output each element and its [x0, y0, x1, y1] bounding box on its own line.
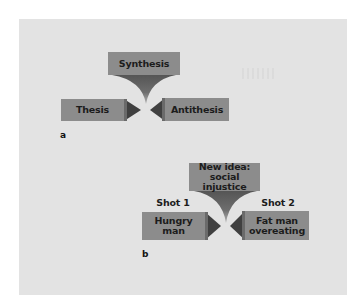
thesis-label: Thesis [76, 105, 109, 115]
new-idea-box: New idea: social injustice [189, 163, 260, 191]
antithesis-box: Antithesis [165, 98, 229, 121]
synthesis-label: Synthesis [119, 59, 169, 69]
hungry-man-box: Hungry man [142, 212, 205, 240]
hungry-man-line2: man [155, 226, 193, 236]
thesis-box: Thesis [61, 99, 124, 121]
shot-2-caption: Shot 2 [257, 197, 299, 208]
fat-man-line2: overeating [249, 226, 305, 236]
fat-man-line1: Fat man [249, 216, 305, 226]
fat-man-box: Fat man overeating [245, 211, 309, 240]
panel-a-sublabel: a [60, 130, 66, 140]
new-idea-line2: social injustice [189, 172, 260, 192]
panel-b-sublabel: b [142, 249, 148, 259]
synthesis-box: Synthesis [108, 52, 180, 75]
antithesis-label: Antithesis [171, 105, 223, 115]
diagram-shapes [0, 0, 363, 306]
shot-1-caption: Shot 1 [152, 197, 194, 208]
